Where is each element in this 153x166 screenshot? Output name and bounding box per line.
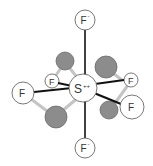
atom-label: F bbox=[19, 88, 25, 99]
lone-pair-sphere bbox=[95, 56, 117, 78]
lone-pair-sphere bbox=[45, 106, 67, 128]
atom-charge: ++ bbox=[83, 83, 91, 89]
atom-f-back-left: F bbox=[45, 74, 59, 88]
atom-label: S bbox=[74, 82, 82, 96]
lone-pair-sphere bbox=[100, 101, 118, 119]
lone-pair-sphere bbox=[56, 52, 74, 70]
atom-label: F bbox=[81, 15, 87, 26]
atom-f-bottom: F - bbox=[75, 138, 95, 158]
atom-f-top: F - bbox=[75, 10, 95, 30]
bond bbox=[95, 80, 124, 84]
atom-charge: - bbox=[88, 13, 90, 19]
bond bbox=[34, 88, 72, 92]
atom-charge: - bbox=[88, 141, 90, 147]
atom-label: F bbox=[49, 77, 55, 87]
atom-f-back-right: F bbox=[124, 73, 138, 87]
atom-sulfur: S ++ bbox=[69, 74, 97, 102]
atom-label: F bbox=[81, 143, 87, 154]
sf6-molecule-diagram: F F S ++ F - F - F F bbox=[0, 0, 153, 166]
atom-label: F bbox=[128, 76, 134, 86]
atom-label: F bbox=[128, 102, 134, 113]
atom-f-right: F bbox=[120, 95, 144, 119]
atom-f-left: F bbox=[12, 82, 34, 104]
